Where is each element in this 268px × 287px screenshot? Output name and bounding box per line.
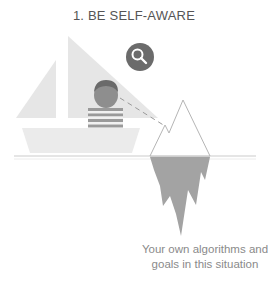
boat-hull: [22, 128, 140, 153]
small-sail: [16, 60, 56, 118]
caption-line-2: goals in this situation: [130, 257, 268, 272]
iceberg-caption: Your own algorithms and goals in this si…: [130, 242, 268, 272]
caption-line-1: Your own algorithms and: [130, 242, 268, 257]
striped-shirt: [88, 108, 123, 128]
iceberg-submerged: [150, 157, 210, 236]
search-badge: [126, 43, 154, 71]
iceberg-tip: [150, 100, 210, 156]
